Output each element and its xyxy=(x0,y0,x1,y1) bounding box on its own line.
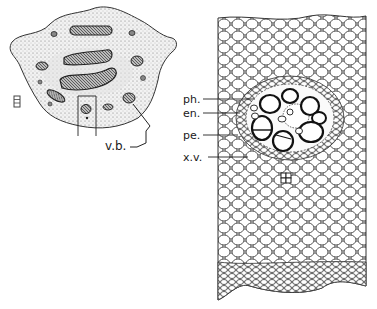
stem-cross-section xyxy=(10,7,176,147)
label-xylem-vessel: x.v. xyxy=(183,152,202,163)
label-vascular-bundle: v.b. xyxy=(105,141,126,152)
label-pericycle: pe. xyxy=(183,130,200,141)
vascular-bundle xyxy=(70,26,112,35)
scale-mark-icon xyxy=(14,96,20,107)
label-endodermis: en. xyxy=(183,108,200,119)
label-phloem: ph. xyxy=(183,94,200,105)
cell-cluster xyxy=(281,173,291,183)
tissue-detail xyxy=(203,15,366,300)
